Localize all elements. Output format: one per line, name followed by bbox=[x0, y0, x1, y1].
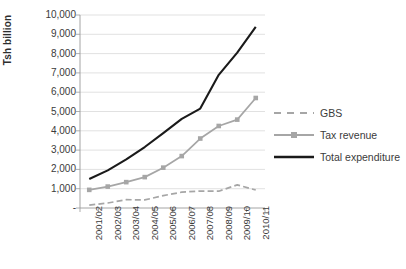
x-axis-tick-label: 2001/02 bbox=[93, 206, 105, 264]
y-axis-tick-label: 7,000 bbox=[24, 68, 76, 78]
x-axis-tick-label: 2009/10 bbox=[241, 206, 253, 264]
legend-item[interactable]: Total expenditure bbox=[272, 148, 404, 166]
y-axis-tick-label: 4,000 bbox=[24, 126, 76, 136]
chart-legend: GBSTax revenueTotal expenditure bbox=[272, 104, 404, 166]
x-axis-tick-label: 2007/08 bbox=[204, 206, 216, 264]
x-axis-tick-label: 2010/11 bbox=[260, 206, 272, 264]
x-axis-tick-label: 2003/04 bbox=[130, 206, 142, 264]
x-axis-tick-label: 2008/09 bbox=[223, 206, 235, 264]
series-marker bbox=[142, 175, 147, 180]
line-chart: Tsh billion 10,0009,0008,0007,0006,0005,… bbox=[0, 0, 406, 269]
x-axis-tick-label: 2002/03 bbox=[112, 206, 124, 264]
legend-key-icon bbox=[272, 148, 316, 166]
series-marker bbox=[124, 180, 129, 185]
series-marker bbox=[235, 117, 240, 122]
y-axis-tick-label: 9,000 bbox=[24, 29, 76, 39]
series-marker bbox=[179, 154, 184, 159]
y-axis-tick-label: 2,000 bbox=[24, 164, 76, 174]
y-axis-tick-label: 8,000 bbox=[24, 49, 76, 59]
plot-area bbox=[80, 15, 265, 208]
series-marker bbox=[87, 188, 92, 193]
series-marker bbox=[216, 124, 221, 129]
plot-svg bbox=[80, 15, 265, 208]
y-axis-tick-label: 3,000 bbox=[24, 145, 76, 155]
y-axis-title: Tsh billion bbox=[2, 0, 16, 90]
series-line bbox=[89, 185, 256, 205]
x-axis-tick-label: 2005/06 bbox=[167, 206, 179, 264]
y-axis-tick-labels: 10,0009,0008,0007,0006,0005,0004,0003,00… bbox=[20, 15, 76, 208]
series-marker bbox=[253, 96, 258, 101]
series-marker bbox=[161, 165, 166, 170]
y-axis-tick-label: 10,000 bbox=[24, 10, 76, 20]
legend-key-icon bbox=[272, 104, 316, 122]
x-axis-tick-labels: 2001/022002/032003/042004/052005/062006/… bbox=[80, 208, 265, 266]
y-axis-tick-label: 5,000 bbox=[24, 107, 76, 117]
series-marker bbox=[198, 136, 203, 141]
series-marker bbox=[105, 184, 110, 189]
y-axis-tick-label: 6,000 bbox=[24, 87, 76, 97]
x-axis-tick-label: 2004/05 bbox=[149, 206, 161, 264]
y-axis-tick-label: 1,000 bbox=[24, 184, 76, 194]
legend-label: Total expenditure bbox=[320, 148, 400, 166]
x-axis-tick-label: 2006/07 bbox=[186, 206, 198, 264]
legend-label: GBS bbox=[320, 104, 342, 122]
series-line bbox=[89, 27, 256, 179]
legend-label: Tax revenue bbox=[320, 126, 377, 144]
legend-key-icon bbox=[272, 126, 316, 144]
y-axis-tick-label: - bbox=[24, 203, 76, 213]
legend-item[interactable]: Tax revenue bbox=[272, 126, 404, 144]
legend-item[interactable]: GBS bbox=[272, 104, 404, 122]
